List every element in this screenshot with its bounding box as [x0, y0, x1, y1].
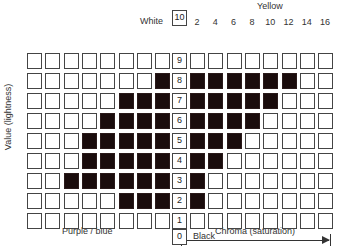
cell-purple-blue-v2-c8 [100, 193, 115, 209]
cell-yellow-v1-c2 [190, 213, 205, 229]
cell-yellow-v2-c2 [190, 193, 205, 209]
cell-yellow-v3-c6 [227, 173, 242, 189]
value-box-10: 10 [172, 10, 187, 26]
cell-purple-blue-v1-c14 [45, 213, 60, 229]
cell-purple-blue-v7-c2 [155, 93, 170, 109]
cell-purple-blue-v5-c10 [82, 133, 97, 149]
cell-yellow-v1-c8 [245, 213, 260, 229]
cell-purple-blue-v7-c14 [45, 93, 60, 109]
cell-purple-blue-v4-c2 [155, 153, 170, 169]
cell-purple-blue-v3-c2 [155, 173, 170, 189]
cell-purple-blue-v8-c16 [27, 73, 42, 89]
value-box-3: 3 [172, 173, 187, 189]
cell-purple-blue-v6-c2 [155, 113, 170, 129]
cell-purple-blue-v3-c12 [64, 173, 79, 189]
cell-purple-blue-v6-c10 [82, 113, 97, 129]
cell-purple-blue-v1-c16 [27, 213, 42, 229]
value-box-2: 2 [172, 193, 187, 209]
cell-yellow-v5-c14 [300, 133, 315, 149]
cell-yellow-v7-c6 [227, 93, 242, 109]
cell-purple-blue-v1-c8 [100, 213, 115, 229]
cell-purple-blue-v1-c2 [155, 213, 170, 229]
cell-purple-blue-v8-c6 [119, 73, 134, 89]
cell-yellow-v6-c8 [245, 113, 260, 129]
cell-yellow-v2-c6 [227, 193, 242, 209]
cell-purple-blue-v3-c10 [82, 173, 97, 189]
white-label: White [140, 16, 163, 26]
cell-purple-blue-v3-c6 [119, 173, 134, 189]
cell-yellow-v4-c16 [318, 153, 333, 169]
cell-yellow-v9-c4 [208, 53, 223, 69]
cell-yellow-v5-c16 [318, 133, 333, 149]
right-tick-8: 8 [244, 17, 260, 27]
cell-purple-blue-v8-c12 [64, 73, 79, 89]
cell-purple-blue-v6-c4 [137, 113, 152, 129]
cell-purple-blue-v5-c16 [27, 133, 42, 149]
cell-purple-blue-v5-c14 [45, 133, 60, 149]
cell-yellow-v8-c14 [300, 73, 315, 89]
cell-yellow-v2-c16 [318, 193, 333, 209]
cell-purple-blue-v5-c12 [64, 133, 79, 149]
cell-purple-blue-v8-c10 [82, 73, 97, 89]
cell-purple-blue-v6-c14 [45, 113, 60, 129]
cell-purple-blue-v1-c10 [82, 213, 97, 229]
value-box-7: 7 [172, 93, 187, 109]
cell-yellow-v7-c14 [300, 93, 315, 109]
cell-yellow-v6-c4 [208, 113, 223, 129]
cell-yellow-v2-c4 [208, 193, 223, 209]
cell-purple-blue-v9-c10 [82, 53, 97, 69]
cell-purple-blue-v7-c12 [64, 93, 79, 109]
right-tick-4: 4 [207, 17, 223, 27]
cell-yellow-v4-c12 [282, 153, 297, 169]
cell-purple-blue-v8-c2 [155, 73, 170, 89]
cell-purple-blue-v9-c16 [27, 53, 42, 69]
y-axis-label: Value (lightness) [3, 77, 13, 157]
cell-purple-blue-v2-c6 [119, 193, 134, 209]
cell-purple-blue-v7-c6 [119, 93, 134, 109]
chroma-arrow-end [330, 234, 331, 246]
cell-purple-blue-v3-c14 [45, 173, 60, 189]
cell-yellow-v7-c12 [282, 93, 297, 109]
cell-yellow-v8-c8 [245, 73, 260, 89]
cell-purple-blue-v1-c6 [119, 213, 134, 229]
cell-purple-blue-v7-c10 [82, 93, 97, 109]
value-box-9: 9 [172, 53, 187, 69]
cell-purple-blue-v5-c8 [100, 133, 115, 149]
cell-yellow-v1-c14 [300, 213, 315, 229]
cell-yellow-v5-c6 [227, 133, 242, 149]
right-tick-16: 16 [317, 17, 333, 27]
cell-purple-blue-v4-c14 [45, 153, 60, 169]
cell-yellow-v6-c10 [263, 113, 278, 129]
cell-purple-blue-v4-c12 [64, 153, 79, 169]
cell-yellow-v4-c8 [245, 153, 260, 169]
cell-yellow-v4-c10 [263, 153, 278, 169]
value-box-0: 0 [172, 229, 187, 245]
cell-yellow-v2-c14 [300, 193, 315, 209]
cell-yellow-v8-c4 [208, 73, 223, 89]
cell-yellow-v6-c2 [190, 113, 205, 129]
cell-yellow-v4-c6 [227, 153, 242, 169]
cell-yellow-v1-c12 [282, 213, 297, 229]
cell-purple-blue-v3-c4 [137, 173, 152, 189]
cell-purple-blue-v4-c16 [27, 153, 42, 169]
cell-purple-blue-v3-c8 [100, 173, 115, 189]
cell-yellow-v6-c12 [282, 113, 297, 129]
cell-yellow-v1-c4 [208, 213, 223, 229]
cell-purple-blue-v9-c4 [137, 53, 152, 69]
cell-yellow-v1-c10 [263, 213, 278, 229]
cell-purple-blue-v9-c8 [100, 53, 115, 69]
cell-yellow-v9-c8 [245, 53, 260, 69]
cell-yellow-v9-c6 [227, 53, 242, 69]
cell-purple-blue-v4-c4 [137, 153, 152, 169]
cell-purple-blue-v9-c12 [64, 53, 79, 69]
cell-yellow-v3-c16 [318, 173, 333, 189]
cell-purple-blue-v4-c8 [100, 153, 115, 169]
cell-yellow-v7-c8 [245, 93, 260, 109]
cell-purple-blue-v2-c2 [155, 193, 170, 209]
cell-yellow-v6-c14 [300, 113, 315, 129]
cell-yellow-v5-c8 [245, 133, 260, 149]
cell-yellow-v9-c2 [190, 53, 205, 69]
cell-purple-blue-v4-c6 [119, 153, 134, 169]
cell-purple-blue-v1-c12 [64, 213, 79, 229]
cell-yellow-v7-c10 [263, 93, 278, 109]
